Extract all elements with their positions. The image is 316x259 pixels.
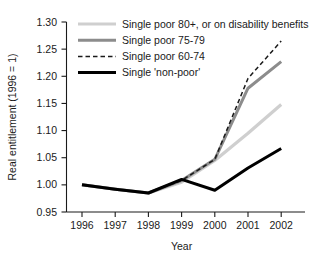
y-tick-label: 0.95 [37, 206, 58, 218]
y-tick-label: 1.20 [37, 70, 58, 82]
legend-label-1: Single poor 75-79 [122, 34, 205, 46]
x-tick-label: 2000 [203, 219, 227, 231]
y-tick-marks [62, 22, 67, 212]
y-tick-label: 1.30 [37, 16, 58, 28]
y-tick-label: 1.05 [37, 151, 58, 163]
x-axis-title: Year [171, 240, 193, 252]
x-tick-label: 2001 [236, 219, 260, 231]
series-line-1 [82, 62, 281, 193]
y-tick-labels: 0.95 1.00 1.05 1.10 1.15 1.20 1.25 1.30 [37, 16, 58, 218]
series-line-3 [82, 148, 281, 193]
y-tick-label: 1.15 [37, 97, 58, 109]
legend-label-0: Single poor 80+, or on disability benefi… [122, 18, 309, 30]
series-group [82, 41, 281, 193]
series-line-2 [82, 41, 281, 193]
y-tick-label: 1.10 [37, 124, 58, 136]
x-tick-label: 1998 [137, 219, 161, 231]
y-tick-label: 1.25 [37, 43, 58, 55]
legend-label-3: Single 'non-poor' [122, 66, 200, 78]
x-tick-label: 1996 [70, 219, 94, 231]
chart-container: 0.95 1.00 1.05 1.10 1.15 1.20 1.25 1.30 … [0, 0, 316, 259]
x-tick-labels: 1996 1997 1998 1999 2000 2001 2002 [70, 219, 293, 231]
x-tick-label: 1999 [170, 219, 194, 231]
x-tick-marks [82, 212, 281, 217]
y-axis-title: Real entitlement (1996 = 1) [6, 54, 18, 181]
x-tick-label: 1997 [104, 219, 128, 231]
legend-label-2: Single poor 60-74 [122, 50, 205, 62]
y-tick-label: 1.00 [37, 178, 58, 190]
line-chart: 0.95 1.00 1.05 1.10 1.15 1.20 1.25 1.30 … [0, 0, 316, 259]
x-tick-label: 2002 [270, 219, 294, 231]
